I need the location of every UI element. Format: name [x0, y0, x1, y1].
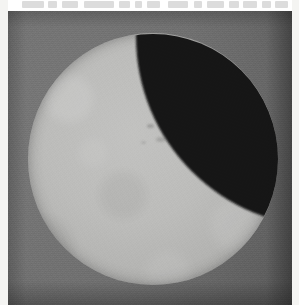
residue-smudge: [243, 1, 257, 8]
residue-smudge: [62, 1, 78, 8]
residue-smudge: [22, 1, 44, 8]
residue-smudge: [119, 1, 130, 8]
eclipse-photo-page: Scanned photographic plate showing a bri…: [0, 0, 299, 305]
photographic-plate: [8, 11, 292, 305]
residue-smudge: [194, 1, 202, 8]
solar-disc-group: [8, 11, 292, 305]
paper-margin-right: [292, 0, 299, 305]
residue-smudge: [207, 1, 224, 8]
residue-smudge: [229, 1, 239, 8]
residue-smudge: [147, 1, 160, 8]
residue-smudge: [262, 1, 271, 8]
residue-smudge: [168, 1, 188, 8]
solar-disc: [28, 33, 278, 285]
residue-smudge: [48, 1, 57, 8]
paper-margin-left: [0, 0, 8, 305]
residue-smudge: [135, 1, 142, 8]
residue-smudge: [275, 1, 288, 8]
scan-residue-strip: [8, 0, 292, 11]
residue-smudge: [84, 1, 114, 8]
